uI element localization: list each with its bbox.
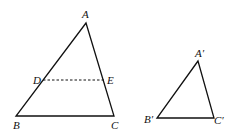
- label-b-prime: B′: [144, 113, 154, 125]
- label-a-prime: A′: [194, 47, 205, 59]
- triangle-a-prime-b-prime-c-prime: [157, 61, 214, 118]
- label-d: D: [32, 74, 41, 86]
- label-b: B: [13, 119, 20, 131]
- label-c-prime: C′: [214, 114, 224, 126]
- triangle-abc: [16, 23, 114, 116]
- similar-triangles-diagram: A B C D E A′ B′ C′: [0, 0, 237, 137]
- label-a: A: [81, 8, 89, 20]
- label-c: C: [111, 119, 119, 131]
- label-e: E: [106, 74, 114, 86]
